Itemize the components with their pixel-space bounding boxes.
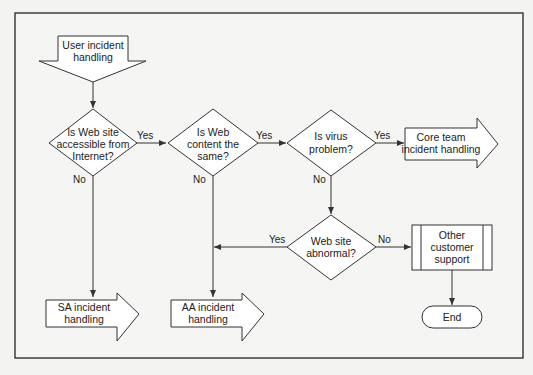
node-label: handling bbox=[188, 313, 228, 325]
node-label: End bbox=[443, 311, 462, 323]
node-label: handling bbox=[73, 51, 113, 63]
node-label: User incident bbox=[62, 39, 123, 51]
node-label: Other bbox=[439, 229, 466, 241]
node-label: handling bbox=[64, 313, 104, 325]
edge-label-yes: Yes bbox=[137, 130, 153, 141]
node-label: same? bbox=[197, 150, 229, 162]
node-label: Is Web site bbox=[67, 126, 119, 138]
node-label: SA incident bbox=[58, 301, 111, 313]
node-label: content the bbox=[187, 138, 239, 150]
node-label: Web site bbox=[311, 235, 352, 247]
node-label: Core team bbox=[416, 131, 465, 143]
edge-label-yes: Yes bbox=[374, 130, 390, 141]
node-label: Is Web bbox=[197, 126, 230, 138]
edge-label-no: No bbox=[378, 234, 391, 245]
node-end: End bbox=[422, 306, 482, 328]
node-label: AA incident bbox=[182, 301, 235, 313]
node-label: accessible from bbox=[57, 138, 130, 150]
edge-label-no: No bbox=[313, 174, 326, 185]
node-label: problem? bbox=[309, 143, 353, 155]
node-label: support bbox=[434, 253, 469, 265]
node-label: Internet? bbox=[72, 150, 114, 162]
edge-label-yes: Yes bbox=[256, 130, 272, 141]
node-label: abnormal? bbox=[306, 247, 356, 259]
edge-label-yes: Yes bbox=[269, 234, 285, 245]
node-label: incident handling bbox=[402, 143, 481, 155]
node-label: Is virus bbox=[314, 130, 347, 142]
node-label: customer bbox=[430, 241, 474, 253]
flowchart-canvas: User incident handling Is Web site acces… bbox=[0, 0, 533, 375]
edge-label-no: No bbox=[73, 174, 86, 185]
node-other-customer-support: Other customer support bbox=[412, 225, 492, 270]
edge-label-no: No bbox=[193, 174, 206, 185]
